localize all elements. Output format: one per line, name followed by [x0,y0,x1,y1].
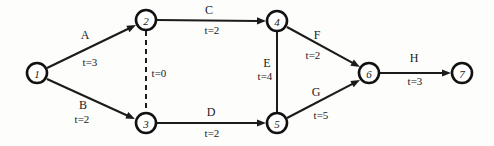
node-5[interactable]: 5 [267,113,287,133]
arrowhead-H [442,69,451,76]
edge-duration-E: t=4 [258,70,273,82]
arrowhead-G [350,80,360,87]
edge-label-E: E [263,56,270,70]
arrowhead-B [125,112,135,119]
edge-label-D: D [207,105,216,119]
edge-duration-F: t=2 [306,49,321,61]
edge-A: At=3 [47,25,136,68]
edge-duration-B: t=2 [75,113,90,125]
edge-duration-D: t=2 [205,127,220,139]
edge-C: Ct=2 [157,3,266,36]
node-label-5: 5 [274,118,280,130]
edge-label-B: B [79,98,87,112]
node-label-6: 6 [366,68,372,80]
edge-stroke-B [47,79,128,116]
node-label-4: 4 [274,16,280,28]
edge-G: Gt=5 [287,80,360,121]
edge-duration-G: t=5 [314,109,329,121]
edge-H: Ht=3 [380,51,451,87]
edge-E: Et=4 [258,32,277,113]
node-4[interactable]: 4 [267,11,287,31]
edge-duration-A: t=3 [83,56,98,68]
node-label-2: 2 [143,15,149,27]
arrowhead-D [257,119,266,126]
node-6[interactable]: 6 [359,63,379,83]
edge-D: Dt=2 [157,105,266,139]
node-3[interactable]: 3 [136,113,156,133]
arrowhead-A [126,25,136,32]
network-diagram-canvas: At=3Bt=2Ct=2t=0Dt=2Et=4Ft=2Gt=5Ht=312345… [0,0,494,146]
edge-dummy: t=0 [146,31,167,112]
network-diagram-svg: At=3Bt=2Ct=2t=0Dt=2Et=4Ft=2Gt=5Ht=312345… [0,0,494,146]
node-label-7: 7 [459,68,465,80]
edge-label-F: F [314,28,321,42]
edge-duration-dummy: t=0 [152,67,167,79]
arrowhead-C [257,17,266,24]
edge-label-A: A [81,28,90,42]
node-1[interactable]: 1 [27,63,47,83]
edge-stroke-C [157,20,259,21]
edge-B: Bt=2 [47,79,135,125]
edge-F: Ft=2 [287,27,360,67]
edge-label-G: G [312,85,321,99]
edge-label-C: C [205,3,213,17]
edge-duration-C: t=2 [205,24,220,36]
node-label-3: 3 [142,118,149,130]
arrowhead-F [350,60,360,67]
node-label-1: 1 [34,68,40,80]
edge-label-H: H [410,51,419,65]
edge-duration-H: t=3 [408,75,423,87]
node-2[interactable]: 2 [136,10,156,30]
node-7[interactable]: 7 [452,63,472,83]
